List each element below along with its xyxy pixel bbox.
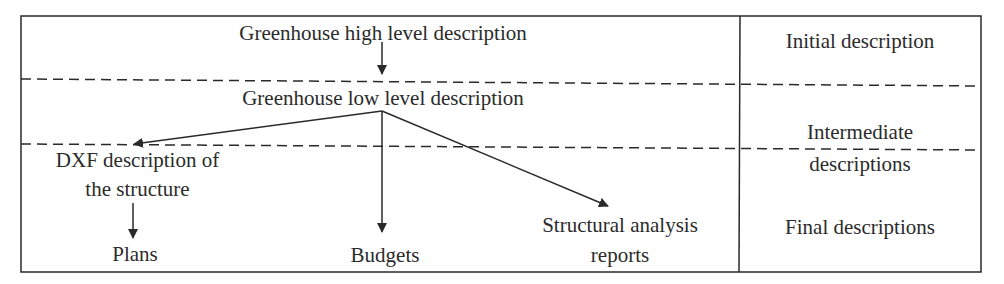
node-low-level-description: Greenhouse low level description bbox=[200, 85, 566, 111]
stage-intermediate-line2: descriptions bbox=[745, 151, 975, 177]
stage-column-divider bbox=[739, 16, 740, 272]
node-high-level-description: Greenhouse high level description bbox=[200, 20, 566, 46]
node-dxf-description-line1: DXF description of bbox=[30, 147, 245, 173]
stage-initial-description: Initial description bbox=[745, 28, 975, 54]
node-structural-analysis-line1: Structural analysis bbox=[515, 212, 725, 238]
node-budgets: Budgets bbox=[330, 242, 440, 268]
stage-intermediate-line1: Intermediate bbox=[745, 119, 975, 145]
node-plans: Plans bbox=[90, 241, 180, 267]
node-structural-analysis-line2: reports bbox=[515, 242, 725, 268]
arrow-low-to-structural bbox=[382, 111, 608, 206]
stage-final-descriptions: Final descriptions bbox=[745, 214, 975, 240]
arrow-low-to-dxf bbox=[134, 111, 382, 144]
node-dxf-description-line2: the structure bbox=[30, 176, 245, 202]
